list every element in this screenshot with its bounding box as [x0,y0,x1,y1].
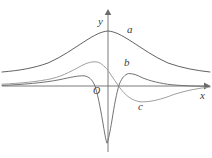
x-axis-label: x [200,90,205,101]
axes-group [2,9,211,152]
figure-container: y x O a b c [0,0,212,158]
curve-a-path [2,31,210,72]
figure-canvas [0,0,212,158]
curve-c-path [2,74,210,144]
origin-label: O [93,86,100,96]
y-axis-arrowhead [105,9,112,15]
curve-c-label: c [138,101,143,112]
curve-a-label: a [127,24,133,35]
curve-b-label: b [124,57,130,68]
y-axis-label: y [98,16,103,27]
